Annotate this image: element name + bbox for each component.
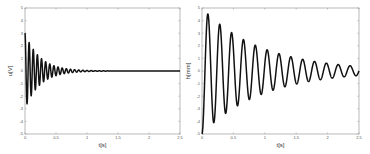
y-tick-label: 4 (21, 18, 24, 23)
x-tick-label: 1.5 (115, 135, 121, 140)
y-tick-label: 3 (198, 31, 201, 36)
x-tick-label: 0 (201, 135, 204, 140)
series-line-h (202, 14, 359, 134)
right-plot-panel: 00.511.522.5-5-4-3-2-1012345t[s]h[mm] (185, 5, 363, 148)
y-tick-label: -3 (19, 106, 23, 111)
y-tick-label: 5 (21, 5, 24, 10)
y-tick-label: -1 (19, 81, 23, 86)
x-tick-label: 2 (326, 135, 329, 140)
y-tick-label: 4 (198, 18, 201, 23)
left-plot-panel: 00.511.522.5-5-4-3-2-1012345t[s]u[V] (7, 5, 184, 148)
x-axis-label: t[s] (276, 142, 284, 148)
y-tick-label: 2 (198, 43, 201, 48)
x-axis-label: t[s] (98, 142, 106, 148)
y-tick-label: 3 (21, 31, 24, 36)
chart-figure: 00.511.522.5-5-4-3-2-1012345t[s]u[V] 00.… (0, 0, 370, 154)
y-tick-label: -2 (19, 94, 23, 99)
x-tick-label: 2.5 (356, 135, 362, 140)
y-axis-label: h[mm] (185, 62, 191, 79)
y-tick-label: 0 (198, 68, 201, 73)
x-tick-label: 0.5 (53, 135, 59, 140)
x-tick-label: 0 (24, 135, 27, 140)
y-tick-label: -4 (19, 119, 23, 124)
y-axis-label: u[V] (7, 65, 13, 76)
y-tick-label: 1 (198, 56, 201, 61)
y-tick-label: 0 (21, 68, 24, 73)
y-tick-label: 5 (198, 5, 201, 10)
x-tick-label: 1.5 (293, 135, 299, 140)
x-tick-label: 2.5 (177, 135, 183, 140)
y-tick-label: 1 (21, 56, 24, 61)
y-tick-label: 2 (21, 43, 24, 48)
x-tick-label: 1 (264, 135, 267, 140)
y-tick-label: -2 (196, 94, 200, 99)
x-tick-label: 0.5 (231, 135, 237, 140)
x-tick-label: 2 (148, 135, 151, 140)
y-tick-label: -4 (196, 119, 200, 124)
y-tick-label: -3 (196, 106, 200, 111)
y-tick-label: -1 (196, 81, 200, 86)
x-tick-label: 1 (86, 135, 89, 140)
series-line-u (25, 33, 180, 104)
